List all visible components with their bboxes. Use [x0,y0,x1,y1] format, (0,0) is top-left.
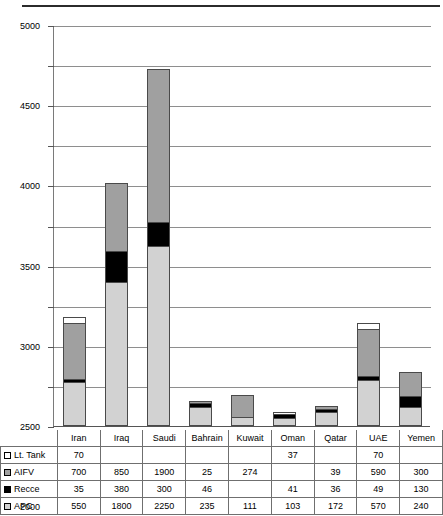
legend-swatch-icon [4,452,11,459]
y-axis-tick: 2000 [48,267,54,268]
bar-saudi [147,69,170,426]
cell-aifv-oman [271,464,314,481]
table-row: Recce3538030046413649130 [1,481,443,498]
y-axis-label: 5000 [20,21,40,31]
cell-aifv-qatar: 39 [314,464,357,481]
bar-oman [273,412,296,426]
legend-label: AIFV [14,467,34,477]
cell-recce-yemen: 130 [400,481,443,498]
bar-segment-aifv [63,323,86,379]
column-header-saudi: Saudi [143,430,186,447]
y-axis-label: 3000 [20,342,40,352]
cell-aifv-kuwait: 274 [229,464,272,481]
cell-apc-oman: 103 [271,498,314,515]
legend-item-aifv: AIFV [1,464,58,481]
legend-label: APC [14,501,33,511]
y-axis-tick: 5000 [48,26,54,27]
table-corner [1,430,58,447]
cell-aifv-uae: 590 [357,464,400,481]
bar-segment-aifv [357,329,380,376]
column-header-qatar: Qatar [314,430,357,447]
cell-aifv-iraq: 850 [100,464,143,481]
cell-lttank-iran: 70 [57,447,100,464]
column-header-uae: UAE [357,430,400,447]
legend-item-lttank: Lt. Tank [1,447,58,464]
cell-apc-kuwait: 111 [229,498,272,515]
bar-segment-aifv [147,69,170,221]
cell-recce-qatar: 36 [314,481,357,498]
column-header-iran: Iran [57,430,100,447]
legend-item-recce: Recce [1,481,58,498]
y-axis-tick: 0 [48,427,54,428]
bar-segment-apc [399,407,422,426]
y-axis-tick: 4500 [48,66,54,67]
legend-swatch-icon [4,503,11,510]
bar-segment-aifv [105,183,128,251]
gridline [54,106,431,107]
cell-aifv-iran: 700 [57,464,100,481]
y-axis-tick: 1500 [48,307,54,308]
legend-swatch-icon [4,486,11,493]
cell-lttank-kuwait [229,447,272,464]
cell-recce-kuwait [229,481,272,498]
y-axis-tick: 500 [48,387,54,388]
cell-recce-uae: 49 [357,481,400,498]
cell-apc-bahrain: 235 [186,498,229,515]
bar-iraq [105,183,128,426]
bar-segment-apc [315,412,338,426]
column-header-iraq: Iraq [100,430,143,447]
legend-item-apc: APC [1,498,58,515]
cell-recce-bahrain: 46 [186,481,229,498]
column-header-yemen: Yemen [400,430,443,447]
cell-aifv-saudi: 1900 [143,464,186,481]
cell-apc-iran: 550 [57,498,100,515]
cell-lttank-qatar [314,447,357,464]
y-axis-tick: 3500 [48,146,54,147]
values-table: IranIraqSaudiBahrainKuwaitOmanQatarUAEYe… [0,430,443,515]
gridline [54,146,431,147]
bar-segment-recce [147,222,170,246]
cell-lttank-saudi [143,447,186,464]
cell-lttank-yemen [400,447,443,464]
cell-recce-oman: 41 [271,481,314,498]
cell-lttank-uae: 70 [357,447,400,464]
gridline [54,26,431,27]
bar-segment-apc [105,282,128,426]
cell-lttank-iraq [100,447,143,464]
bar-kuwait [231,395,254,426]
bar-segment-apc [231,417,254,426]
bar-yemen [399,372,422,426]
y-axis-tick: 4000 [48,106,54,107]
bar-segment-apc [273,418,296,426]
plot-area: 0500100015002000250030003500400045005000 [53,26,430,427]
legend-swatch-icon [4,469,11,476]
cell-recce-iraq: 380 [100,481,143,498]
cell-aifv-yemen: 300 [400,464,443,481]
bar-segment-aifv [231,395,254,417]
gridline [54,66,431,67]
cell-apc-saudi: 2250 [143,498,186,515]
table-row: AIFV70085019002527439590300 [1,464,443,481]
bar-iran [63,317,86,426]
cell-lttank-bahrain [186,447,229,464]
column-header-bahrain: Bahrain [186,430,229,447]
bar-segment-recce [399,396,422,406]
cell-apc-iraq: 1800 [100,498,143,515]
cell-apc-qatar: 172 [314,498,357,515]
y-axis-label: 4000 [20,181,40,191]
column-header-oman: Oman [271,430,314,447]
bar-segment-apc [357,380,380,426]
cell-apc-yemen: 240 [400,498,443,515]
data-table: IranIraqSaudiBahrainKuwaitOmanQatarUAEYe… [0,430,443,515]
legend-label: Recce [14,484,40,494]
table-row: APC55018002250235111103172570240 [1,498,443,515]
column-header-kuwait: Kuwait [229,430,272,447]
table-row: Lt. Tank703770 [1,447,443,464]
y-axis-tick: 1000 [48,347,54,348]
bar-bahrain [189,401,212,426]
y-axis-label: 3500 [20,262,40,272]
bar-segment-apc [147,246,170,426]
bar-segment-apc [63,382,86,426]
y-axis-label: 4500 [20,101,40,111]
y-axis-tick: 2500 [48,227,54,228]
